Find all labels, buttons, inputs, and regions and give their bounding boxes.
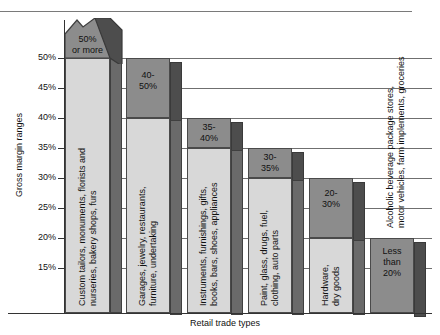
bar-2-side-panel [170, 120, 182, 315]
bar-1-category-line1: Custom tailors, monuments, florists and [77, 148, 88, 306]
bar-5-side-panel [353, 240, 365, 315]
bar-3-side-panel [231, 150, 243, 315]
y-axis-title: Gross margin ranges [14, 100, 24, 210]
bar-6-range-line2: than [370, 257, 414, 268]
bar-1-category-line2: nurseries, bakery shops, furs [88, 148, 99, 306]
bar-2-side-head [170, 62, 182, 122]
bar-4-side-panel [292, 180, 304, 315]
bar-1-range-line1: 50% [65, 34, 110, 45]
bar-4-range-label: 30- 35% [248, 152, 292, 174]
y-tick-label-30: 30% [22, 172, 56, 182]
bar-group-1[interactable]: 50% or more Custom tailors, monuments, f… [65, 18, 110, 313]
y-tick-mark-35 [58, 148, 65, 149]
bar-4-range-line2: 35% [248, 163, 292, 174]
y-tick-label-35: 35% [22, 142, 56, 152]
bar-1-category-label: Custom tailors, monuments, florists and … [77, 148, 99, 306]
bar-5-range-line2: 30% [309, 199, 353, 210]
y-tick-mark-30 [58, 178, 65, 179]
y-tick-mark-50 [58, 58, 65, 59]
bar-5-side-head [353, 182, 365, 242]
y-tick-label-20: 20% [22, 232, 56, 242]
bar-group-2[interactable]: 40- 50% Garages, jewelry, restaurants, f… [126, 58, 170, 313]
bar-group-4[interactable]: 30- 35% Paint, glass, drugs, fuel, cloth… [248, 148, 292, 313]
bar-6-category-label: Alcoholic beverage package stores, motor… [385, 56, 407, 228]
y-tick-mark-25 [58, 208, 65, 209]
bar-6-side-head [414, 242, 426, 317]
bar-6-range-label: Less than 20% [370, 246, 414, 279]
bar-2-range-line1: 40- [126, 70, 170, 81]
x-axis-line [8, 313, 432, 314]
bar-2-category-line1: Garages, jewelry, restaurants, [137, 187, 148, 306]
top-divider-rule [0, 11, 412, 12]
bar-group-3[interactable]: 35- 40% Instruments, furnishings, gifts,… [187, 118, 231, 313]
bar-group-5[interactable]: 20- 30% Hardware, dry goods [309, 178, 353, 313]
bar-6-range-line1: Less [370, 246, 414, 257]
bar-1-range-line2: or more [65, 45, 110, 56]
bar-1-side-panel [110, 58, 122, 313]
y-tick-label-45: 45% [22, 82, 56, 92]
y-tick-label-15: 15% [22, 262, 56, 272]
bar-4-side-head [292, 152, 304, 182]
bar-5-category-label: Hardware, dry goods [320, 264, 342, 306]
y-tick-label-40: 40% [22, 112, 56, 122]
bar-2-category-label: Garages, jewelry, restaurants, furniture… [137, 187, 159, 306]
bar-3-range-line2: 40% [187, 133, 231, 144]
bar-3-category-line1: Instruments, furnishings, gifts, [198, 182, 209, 306]
bar-5-category-line2: dry goods [331, 264, 342, 306]
bar-4-range-line1: 30- [248, 152, 292, 163]
bar-3-category-label: Instruments, furnishings, gifts, books, … [198, 182, 220, 306]
bar-3-range-line1: 35- [187, 122, 231, 133]
bar-4-category-label: Paint, glass, drugs, fuel, clothing, aut… [259, 210, 281, 306]
bar-3-range-label: 35- 40% [187, 122, 231, 144]
bar-2-range-label: 40- 50% [126, 70, 170, 92]
bar-4-category-line1: Paint, glass, drugs, fuel, [259, 210, 270, 306]
bar-2-category-line2: furniture, undertaking [148, 187, 159, 306]
bar-group-6[interactable]: Less than 20% [370, 238, 414, 313]
bar-3-side-head [231, 122, 243, 152]
bar-1-range-label: 50% or more [65, 34, 110, 56]
chart-canvas: 50% or more Custom tailors, monuments, f… [0, 0, 440, 335]
bar-5-range-line1: 20- [309, 188, 353, 199]
x-axis-title: Retail trade types [135, 318, 315, 328]
bar-3-category-line2: books, bars, shoes, appliances [209, 182, 220, 306]
bar-4-category-line2: clothing, auto parts [270, 210, 281, 306]
bar-2-range-line2: 50% [126, 81, 170, 92]
bar-6-category-line2: motor vehicles, farm implements, groceri… [396, 56, 407, 228]
bar-6-category-line1: Alcoholic beverage package stores, [385, 56, 396, 228]
y-tick-label-50: 50% [22, 52, 56, 62]
y-tick-mark-15 [58, 268, 65, 269]
bar-5-range-label: 20- 30% [309, 188, 353, 210]
bar-6-range-line3: 20% [370, 268, 414, 279]
y-axis-line [64, 20, 65, 314]
y-tick-mark-20 [58, 238, 65, 239]
y-tick-mark-45 [58, 88, 65, 89]
y-tick-mark-40 [58, 118, 65, 119]
y-tick-label-25: 25% [22, 202, 56, 212]
bar-5-category-line1: Hardware, [320, 264, 331, 306]
